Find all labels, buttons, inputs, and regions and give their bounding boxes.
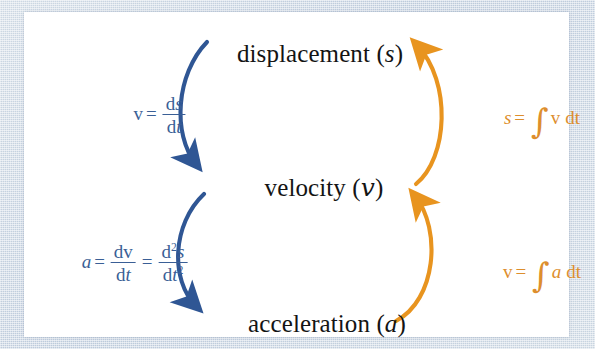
fraction-denominator: dt2 — [159, 263, 188, 284]
integral-icon: ∫ — [531, 100, 549, 140]
node-velocity-name: velocity — [265, 174, 346, 201]
node-velocity-symbol: (v) — [352, 174, 383, 201]
differential: dt — [565, 107, 580, 128]
node-acceleration: acceleration (a) — [248, 311, 406, 336]
formula-lhs: s — [504, 107, 511, 128]
diagram-panel: displacement (s) velocity (v) accelerati… — [24, 12, 569, 337]
formula-lhs: a — [82, 251, 92, 272]
fraction-dv-dt: dv dt — [111, 242, 136, 284]
equals-sign: = — [515, 261, 526, 282]
formula-velocity-derivative: v= ds dt — [133, 95, 188, 137]
fraction-ds-dt: ds dt — [163, 94, 186, 136]
fraction-d2s-dt2: d2s dt2 — [159, 242, 188, 284]
node-acceleration-name: acceleration — [248, 310, 370, 337]
node-displacement-symbol: (s) — [376, 40, 403, 67]
node-displacement: displacement (s) — [237, 41, 403, 66]
equals-sign: = — [94, 251, 105, 272]
arrow-acceleration-to-velocity — [396, 196, 432, 321]
formula-displacement-integral: s=∫vdt — [504, 108, 580, 127]
node-displacement-name: displacement — [237, 40, 370, 67]
fraction-denominator: dt — [163, 115, 186, 136]
fraction-denominator: dt — [111, 263, 136, 284]
integral-icon: ∫ — [532, 254, 550, 294]
arrow-velocity-to-displacement — [416, 45, 442, 184]
node-velocity: velocity (v) — [265, 175, 384, 200]
equals-sign: = — [514, 107, 525, 128]
formula-lhs: v — [133, 103, 143, 124]
node-acceleration-symbol: (a) — [376, 310, 405, 337]
formula-acceleration-derivative: a= dv dt = d2s dt2 — [82, 243, 191, 285]
integrand: v — [551, 107, 561, 128]
fraction-numerator: d2s — [159, 242, 188, 263]
integrand: a — [552, 261, 562, 282]
fraction-numerator: ds — [163, 94, 186, 115]
equals-sign-2: = — [142, 251, 153, 272]
equals-sign: = — [146, 103, 157, 124]
differential: dt — [566, 261, 581, 282]
fraction-numerator: dv — [111, 242, 136, 263]
formula-lhs: v — [503, 261, 513, 282]
diagram-root: displacement (s) velocity (v) accelerati… — [0, 0, 595, 349]
formula-velocity-integral: v=∫adt — [503, 262, 581, 281]
